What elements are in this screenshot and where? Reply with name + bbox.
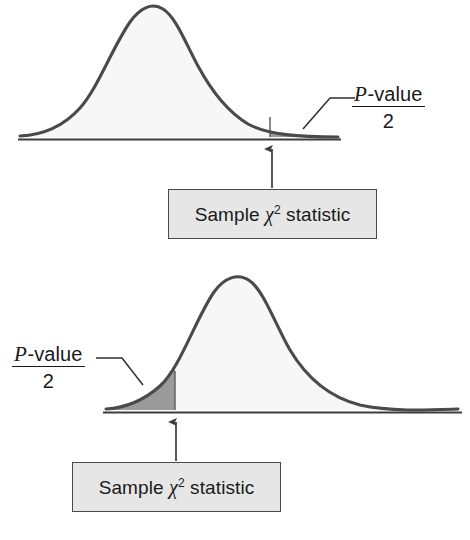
lower-statistic-box-text: Sample χ2 statistic [99,476,255,499]
lower-statistic-box[interactable]: Sample χ2 statistic [72,462,281,512]
upper-pvalue-leader-line [303,98,355,129]
upper-panel [18,6,355,188]
lower-pvalue-label: P-value 2 [12,344,85,391]
upper-curve-fill [20,6,338,137]
lower-pvalue-leader-line [96,358,143,385]
upper-pvalue-numerator: P-value [352,84,425,107]
upper-pvalue-label: P-value 2 [352,84,425,131]
upper-statistic-prefix: Sample [195,204,265,225]
upper-chi-symbol: χ [265,203,274,225]
lower-pvalue-p-italic: P [14,342,27,366]
lower-chi-symbol: χ [169,476,178,498]
chi-square-pvalue-figure: P-value 2 Sample χ2 statistic P-value 2 … [0,0,470,540]
lower-pvalue-numerator: P-value [12,344,85,367]
upper-pvalue-value-text: -value [367,83,422,105]
lower-pvalue-value-text: -value [27,343,82,365]
figure-canvas [0,0,470,540]
upper-statistic-box-text: Sample χ2 statistic [195,203,351,226]
lower-chi-exponent: 2 [178,475,185,489]
upper-statistic-box[interactable]: Sample χ2 statistic [168,189,377,239]
lower-statistic-suffix: statistic [185,477,255,498]
upper-pvalue-p-italic: P [354,82,367,106]
upper-pvalue-denominator: 2 [352,111,425,131]
upper-chi-exponent: 2 [274,202,281,216]
lower-statistic-prefix: Sample [99,477,169,498]
lower-pvalue-denominator: 2 [12,371,85,391]
lower-panel [96,277,462,461]
upper-statistic-suffix: statistic [281,204,351,225]
